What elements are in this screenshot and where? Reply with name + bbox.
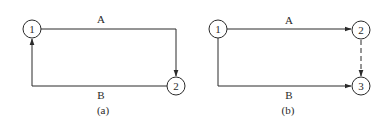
edge-a-A [41, 29, 176, 76]
edge-label-A: A [285, 14, 293, 26]
network-diagrams: 1 2 A B (a) 1 2 3 A B (b) [0, 0, 389, 123]
edge-b-B [218, 38, 351, 86]
caption-a: (a) [97, 104, 110, 117]
node-label: 2 [358, 24, 364, 36]
edge-label-B: B [285, 89, 292, 101]
edge-label-B: B [97, 89, 104, 101]
node-label: 3 [358, 80, 364, 92]
diagram-a: 1 2 A B (a) [23, 13, 185, 117]
node-b-1: 1 [209, 20, 227, 38]
node-b-2: 2 [352, 21, 370, 39]
diagram-b: 1 2 3 A B (b) [209, 14, 370, 117]
diagram-svg: 1 2 A B (a) 1 2 3 A B (b) [0, 0, 389, 123]
edge-a-B [32, 39, 167, 86]
node-a-1: 1 [23, 20, 41, 38]
node-label: 2 [173, 80, 179, 92]
caption-b: (b) [282, 104, 295, 117]
node-a-2: 2 [167, 77, 185, 95]
edge-label-A: A [97, 13, 105, 25]
node-label: 1 [29, 23, 35, 35]
node-label: 1 [215, 23, 221, 35]
node-b-3: 3 [352, 77, 370, 95]
